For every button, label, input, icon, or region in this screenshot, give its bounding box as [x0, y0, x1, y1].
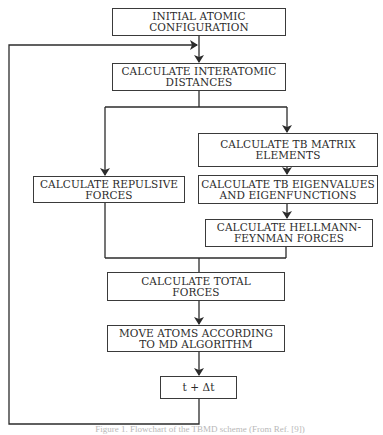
figure-caption: Figure 1. Flowchart of the TBMD scheme (… — [40, 424, 360, 434]
node-calculate-tb-matrix-elements: CALCULATE TB MATRIX ELEMENTS — [198, 133, 378, 167]
node-calculate-hellmann-feynman-forces: CALCULATE HELLMANN- FEYNMAN FORCES — [205, 219, 373, 247]
flowchart-canvas: INITIAL ATOMIC CONFIGURATION CALCULATE I… — [0, 0, 383, 435]
node-move-atoms: MOVE ATOMS ACCORDING TO MD ALGORITHM — [107, 325, 285, 352]
node-calculate-total-forces: CALCULATE TOTAL FORCES — [107, 272, 285, 301]
node-time-step: t + Δt — [160, 376, 237, 399]
node-calculate-interatomic-distances: CALCULATE INTERATOMIC DISTANCES — [112, 63, 286, 91]
node-calculate-tb-eigenvalues: CALCULATE TB EIGENVALUES AND EIGENFUNCTI… — [198, 175, 378, 204]
node-initial-configuration: INITIAL ATOMIC CONFIGURATION — [112, 8, 286, 36]
node-calculate-repulsive-forces: CALCULATE REPULSIVE FORCES — [33, 176, 185, 203]
